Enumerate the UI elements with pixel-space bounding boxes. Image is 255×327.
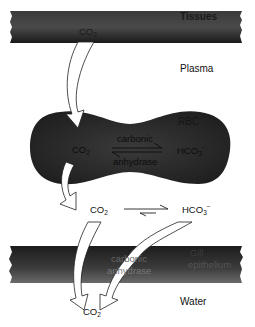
plasma-equilibrium-arrows-icon — [124, 205, 168, 216]
label-water: Water — [180, 297, 206, 307]
plasma-co2-base: CO — [90, 204, 104, 215]
tissue-co2: CO2 — [79, 27, 97, 39]
rbc-enzyme-bottom: anhydrase — [113, 157, 157, 167]
label-gill: Gill — [190, 248, 204, 258]
plasma-hco3-sub: 3 — [203, 209, 207, 216]
plasma-hco3-base: HCO — [182, 204, 203, 215]
rbc-co2: CO2 — [72, 145, 90, 157]
label-rbc: RBC — [178, 117, 199, 127]
tissue-co2-sub: 2 — [93, 31, 97, 38]
rbc-enzyme-top: carbonic — [117, 134, 153, 144]
label-tissues: Tissues — [180, 12, 217, 22]
water-co2: CO2 — [83, 307, 101, 319]
gill-enzyme-top: carbonic — [111, 254, 147, 264]
plasma-co2-sub: 2 — [104, 209, 108, 216]
gill-enzyme-bottom: anhydrase — [107, 266, 151, 276]
tissue-co2-base: CO — [79, 26, 93, 37]
rbc-hco3-base: HCO — [177, 145, 198, 156]
label-plasma: Plasma — [180, 64, 213, 74]
label-epithelium: epithelium — [188, 260, 231, 270]
co2-transport-diagram: Tissues Plasma RBC Gill epithelium Water… — [0, 0, 255, 327]
plasma-co2: CO2 — [90, 205, 108, 217]
plasma-hco3-sup: − — [207, 203, 211, 210]
rbc-hco3-sup: − — [202, 144, 206, 151]
rbc-hco3: HCO3− — [177, 145, 206, 158]
water-co2-base: CO — [83, 306, 97, 317]
rbc-hco3-sub: 3 — [198, 150, 202, 157]
rbc-co2-base: CO — [72, 144, 86, 155]
plasma-hco3: HCO3− — [182, 204, 211, 217]
water-co2-sub: 2 — [97, 311, 101, 318]
rbc-co2-sub: 2 — [86, 149, 90, 156]
